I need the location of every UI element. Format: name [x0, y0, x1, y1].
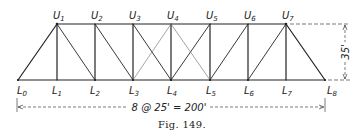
diagonal-l5-u6 [210, 24, 248, 80]
label-l4: L4 [167, 85, 177, 98]
label-u5: U5 [206, 10, 218, 23]
truss-members [18, 24, 325, 80]
end-post-left [18, 24, 57, 80]
label-u3: U3 [129, 10, 141, 23]
label-u4: U4 [167, 10, 179, 23]
top-node-labels: U1 U2 U3 U4 U5 U6 U7 [53, 10, 294, 23]
label-l1: L1 [52, 85, 62, 98]
end-post-right [286, 24, 325, 80]
span-label: 8 @ 25' = 200' [132, 102, 207, 113]
label-u2: U2 [91, 10, 103, 23]
diagonal-u2-l3 [95, 24, 133, 80]
label-l2: L2 [90, 85, 101, 98]
diagonal-u1-l2 [57, 24, 95, 80]
label-l7: L7 [282, 85, 293, 98]
label-l8: L8 [327, 85, 338, 98]
label-u1: U1 [53, 10, 65, 23]
label-u6: U6 [244, 10, 256, 23]
figure-caption: Fig. 149. [158, 119, 206, 130]
diagonal-l6-u7 [248, 24, 286, 80]
label-l0: L0 [17, 85, 28, 98]
label-l6: L6 [244, 85, 255, 98]
truss-figure: U1 U2 U3 U4 U5 U6 U7 L0 L1 L2 L3 L4 L5 L… [0, 0, 364, 134]
label-l3: L3 [129, 85, 139, 98]
bottom-node-labels: L0 L1 L2 L3 L4 L5 L6 L7 L8 [17, 85, 338, 98]
height-label: 35' [340, 44, 351, 59]
label-u7: U7 [282, 10, 294, 23]
label-l5: L5 [206, 85, 217, 98]
